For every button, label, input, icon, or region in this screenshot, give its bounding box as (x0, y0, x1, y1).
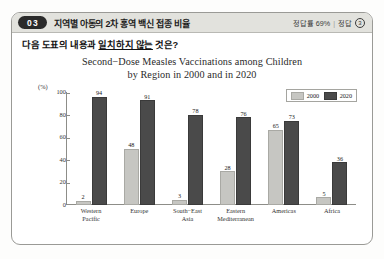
screenshot-root: 03 지역별 아동의 2차 홍역 백신 접종 비율 정답률 69% | 정답 3… (0, 0, 384, 259)
bar-group: 378 (163, 92, 211, 205)
bar-value-label: 2 (82, 193, 85, 200)
bar-2020: 36 (332, 162, 347, 205)
bar-value-label: 65 (273, 122, 279, 129)
x-axis-label: WesternPacific (67, 207, 115, 222)
bar-group: 4891 (115, 92, 163, 205)
question-prompt: 다음 도표의 내용과 일치하지 않는 것은? (22, 37, 178, 51)
bar-value-label: 73 (289, 113, 295, 120)
bar-value-label: 36 (337, 155, 343, 162)
bar-value-label: 78 (192, 107, 198, 114)
bar-value-label: 48 (128, 141, 134, 148)
accuracy-rate: 정답률 69% (293, 18, 330, 28)
bar-2020: 76 (236, 117, 251, 205)
x-axis-label: Americas (260, 207, 308, 222)
header-title: 지역별 아동의 2차 홍역 백신 접종 비율 (54, 17, 190, 30)
question-card: 03 지역별 아동의 2차 홍역 백신 접종 비율 정답률 69% | 정답 3… (11, 12, 373, 245)
bar-value-label: 94 (96, 89, 102, 96)
bar-groups: 294489137828766573536 (67, 92, 356, 205)
bar-group: 2876 (212, 92, 260, 205)
x-axis-label: Africa (308, 207, 356, 222)
x-axis-label: Europe (115, 207, 163, 222)
bar-group: 536 (308, 92, 356, 205)
chart-figure: Second−Dose Measles Vaccinations among C… (21, 54, 363, 240)
bar-2000: 65 (268, 130, 283, 205)
y-tick-40: 40 (45, 156, 66, 163)
bar-2000: 48 (124, 149, 139, 205)
card-header: 03 지역별 아동의 2차 홍역 백신 접종 비율 정답률 69% | 정답 3 (12, 13, 372, 33)
chart-title-line-2: by Region in 2000 and in 2020 (21, 69, 363, 82)
bar-group: 294 (67, 92, 115, 205)
bar-2000: 3 (172, 200, 187, 205)
x-axis-label-line: Western (67, 207, 115, 215)
answer-label: 정답 (338, 18, 352, 28)
bar-value-label: 5 (322, 190, 325, 197)
chart-title-line-1: Second−Dose Measles Vaccinations among C… (21, 56, 363, 69)
chart-title: Second−Dose Measles Vaccinations among C… (21, 54, 363, 81)
x-axis-label-line: Americas (260, 207, 308, 215)
header-meta: 정답률 69% | 정답 3 (293, 18, 365, 28)
y-tick-80: 80 (45, 111, 66, 118)
x-axis-label-line: Mediterranean (212, 215, 260, 223)
bar-value-label: 91 (144, 93, 150, 100)
x-axis-label: EasternMediterranean (212, 207, 260, 222)
bar-2020: 73 (284, 121, 299, 205)
question-prefix: 다음 도표의 내용과 (22, 40, 98, 50)
bar-value-label: 28 (225, 164, 231, 171)
x-axis-label-line: Asia (163, 215, 211, 223)
question-emphasis: 일치하지 않는 (98, 40, 152, 50)
bar-2020: 94 (92, 97, 107, 205)
x-axis-label-line: South−East (163, 207, 211, 215)
x-axis-label: South−EastAsia (163, 207, 211, 222)
x-axis-label-line: Africa (308, 207, 356, 215)
question-suffix: 것은? (153, 40, 178, 50)
y-tick-20: 20 (45, 178, 66, 185)
bar-2020: 78 (188, 115, 203, 205)
bar-2020: 91 (140, 100, 155, 205)
bar-2000: 5 (316, 197, 331, 205)
plot-area: (%) 100806040200 2000 2020 (21, 83, 363, 235)
y-tick-0: 0 (45, 201, 66, 208)
answer-choice-badge: 3 (355, 18, 365, 28)
bar-group: 6573 (260, 92, 308, 205)
bar-value-label: 76 (241, 110, 247, 117)
x-axis-label-line: Europe (115, 207, 163, 215)
y-tick-100: 100 (45, 88, 66, 95)
question-number-badge: 03 (18, 16, 47, 29)
x-axis-labels: WesternPacificEuropeSouth−EastAsiaEaster… (67, 207, 356, 222)
bar-2000: 28 (220, 171, 235, 205)
bar-value-label: 3 (178, 192, 181, 199)
x-axis-label-line: Eastern (212, 207, 260, 215)
y-tick-60: 60 (45, 133, 66, 140)
bar-2000: 2 (76, 201, 91, 205)
meta-separator: | (333, 19, 335, 28)
x-axis-label-line: Pacific (67, 215, 115, 223)
